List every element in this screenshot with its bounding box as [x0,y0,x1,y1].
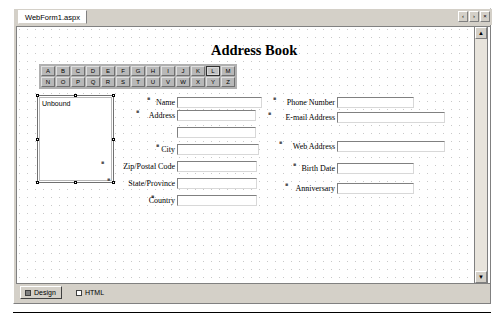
page-title: Address Book [211,42,297,59]
field-label-wrap-anniversary: ■ Anniversary [283,183,335,194]
tab-design-label: Design [34,287,56,299]
ide-window: WebForm1.aspx ‹ › × Address Book A B C [13,8,491,304]
alpha-button-q[interactable]: Q [86,77,100,87]
input-state-province[interactable] [177,178,257,189]
field-label-wrap-web: ■ Web Address [279,141,335,152]
alpha-button-m[interactable]: M [221,66,235,76]
resize-grip-mr[interactable] [112,138,115,141]
field-label-wrap-email: ■ E-mail Address [270,112,335,123]
label-email-address: E-mail Address [285,113,335,123]
label-phone-number: Phone Number [287,98,335,108]
input-birth-date[interactable] [337,163,414,174]
alpha-button-b[interactable]: B [56,66,70,76]
contacts-listbox-value: Unbound [42,99,70,108]
label-city: City [161,145,175,155]
scroll-down-icon[interactable]: ▼ [475,271,487,283]
alpha-button-u[interactable]: U [146,77,160,87]
designer-surface[interactable]: Address Book A B C D E F G H I [16,26,490,284]
alpha-button-h[interactable]: H [146,66,160,76]
alphabet-row-2: N O P Q R S T U V W X Y Z [41,77,235,87]
tab-next-icon[interactable]: › [469,11,479,22]
label-state-province: State/Province [128,179,175,189]
field-marker-icon-state: ■ [107,177,110,182]
field-marker-icon-name: ■ [147,96,150,101]
label-address: Address [149,111,175,121]
alpha-button-p[interactable]: P [71,77,85,87]
alpha-button-z[interactable]: Z [221,77,235,87]
field-label-wrap-birth: ■ Birth Date [289,163,335,174]
input-country[interactable] [177,195,257,206]
scroll-up-icon[interactable]: ▲ [475,27,487,39]
label-web-address: Web Address [293,142,335,152]
alpha-button-e[interactable]: E [101,66,115,76]
field-label-wrap-country: ■ Country [121,195,175,206]
alpha-button-x[interactable]: X [191,77,205,87]
tab-prev-icon[interactable]: ‹ [458,11,468,22]
design-view-icon [25,290,31,296]
tab-design[interactable]: Design [20,286,62,299]
input-email-address[interactable] [337,112,445,123]
input-web-address[interactable] [337,141,445,152]
alphabet-nav-table: A B C D E F G H I J K L M [39,64,237,89]
input-address-line1[interactable] [177,110,256,121]
field-label-wrap-city: ■ City [127,144,175,155]
alphabet-row-1: A B C D E F G H I J K L M [41,66,235,76]
html-view-icon [76,290,82,296]
field-marker-icon-web: ■ [279,140,282,145]
alpha-button-d[interactable]: D [86,66,100,76]
tabstrip-nav-group: ‹ › × [458,11,490,22]
label-name: Name [156,98,175,108]
alpha-button-g[interactable]: G [131,66,145,76]
close-icon[interactable]: × [480,11,490,22]
document-tab-webform1[interactable]: WebForm1.aspx [18,10,87,24]
resize-grip-bc[interactable] [74,181,77,184]
field-marker-icon-birth-date: ■ [293,162,296,167]
alpha-button-a[interactable]: A [41,66,55,76]
alpha-button-i[interactable]: I [161,66,175,76]
field-marker-icon-anniversary: ■ [285,182,288,187]
horizontal-rule [13,312,491,313]
resize-grip-tc[interactable] [74,94,77,97]
tab-html-label: HTML [85,287,104,299]
field-label-wrap-phone: ■ Phone Number [273,97,335,108]
field-label-wrap-address: ■ Address [97,110,175,121]
field-label-wrap-zip: ■ Zip/Postal Code [103,161,175,172]
document-tabstrip: WebForm1.aspx ‹ › × [14,9,492,25]
alpha-button-w[interactable]: W [176,77,190,87]
screenshot-root: WebForm1.aspx ‹ › × Address Book A B C [0,0,504,321]
resize-grip-tl[interactable] [36,94,39,97]
field-marker-icon-email: ■ [268,111,271,116]
input-anniversary[interactable] [337,183,414,194]
field-marker-icon-city: ■ [156,143,159,148]
alpha-button-l[interactable]: L [206,66,220,76]
alpha-button-s[interactable]: S [116,77,130,87]
alpha-button-v[interactable]: V [161,77,175,87]
alpha-button-o[interactable]: O [56,77,70,87]
alpha-button-c[interactable]: C [71,66,85,76]
alpha-button-j[interactable]: J [176,66,190,76]
design-canvas-grid[interactable]: Address Book A B C D E F G H I [17,27,475,283]
input-address-line2[interactable] [177,127,256,138]
alpha-button-n[interactable]: N [41,77,55,87]
input-name[interactable] [177,97,262,108]
field-marker-icon-phone: ■ [273,96,276,101]
field-marker-icon-address: ■ [136,109,139,114]
field-label-wrap-name: ■ Name [107,97,175,108]
resize-grip-ml[interactable] [36,138,39,141]
field-marker-icon-zip: ■ [101,160,104,165]
input-zip-postal-code[interactable] [177,161,257,172]
alpha-button-t[interactable]: T [131,77,145,87]
alpha-button-f[interactable]: F [116,66,130,76]
alpha-button-k[interactable]: K [191,66,205,76]
resize-grip-bl[interactable] [36,181,39,184]
scrollbar-track[interactable] [475,39,487,271]
alpha-button-y[interactable]: Y [206,77,220,87]
label-country: Country [149,196,175,206]
tab-html[interactable]: HTML [72,286,109,299]
input-city[interactable] [177,144,259,155]
label-birth-date: Birth Date [301,164,335,174]
vertical-scrollbar[interactable]: ▲ ▼ [474,26,488,284]
field-label-wrap-state: ■ State/Province [107,178,175,189]
alpha-button-r[interactable]: R [101,77,115,87]
input-phone-number[interactable] [337,97,414,108]
